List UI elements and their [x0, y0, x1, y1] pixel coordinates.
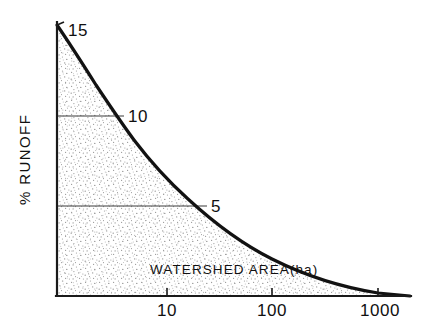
figure-container: 15 10 5 10 100 1000 WATERSHED AREA(ha) %…	[0, 0, 427, 328]
value-label-5: 5	[211, 197, 221, 216]
value-label-15: 15	[68, 21, 88, 40]
x-tick-label-10: 10	[157, 301, 177, 320]
x-tick-label-1000: 1000	[360, 301, 400, 320]
runoff-vs-watershed-area-chart: 15 10 5 10 100 1000 WATERSHED AREA(ha) %…	[0, 0, 427, 328]
value-label-10: 10	[128, 107, 148, 126]
x-tick-label-100: 100	[257, 301, 287, 320]
x-axis-title: WATERSHED AREA(ha)	[150, 262, 318, 277]
area-fill-under-curve	[57, 22, 411, 297]
y-axis-title: % RUNOFF	[16, 114, 33, 205]
